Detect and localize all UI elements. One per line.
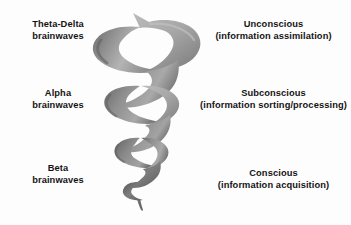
label-conscious-line2: (information acquisition) (196, 180, 351, 192)
label-theta-delta-brainwaves: Theta-Delta brainwaves (2, 19, 114, 43)
label-alpha-brainwaves: Alpha brainwaves (2, 88, 114, 112)
label-alpha-line2: brainwaves (2, 100, 114, 112)
brainwave-consciousness-diagram: Theta-Delta brainwaves Alpha brainwaves … (0, 0, 351, 225)
spiral-tail-tip (137, 199, 143, 211)
label-unconscious: Unconscious (information assimilation) (196, 19, 351, 43)
label-conscious-line1: Conscious (196, 168, 351, 180)
spiral-mid-descent (119, 115, 171, 152)
label-subconscious-line1: Subconscious (196, 88, 351, 100)
label-unconscious-line2: (information assimilation) (196, 31, 351, 43)
label-beta-brainwaves: Beta brainwaves (2, 163, 114, 187)
label-subconscious-line2: (information sorting/processing) (196, 100, 351, 112)
spiral-mid-right-face (141, 86, 179, 127)
spiral-shade-low (116, 145, 124, 162)
label-beta-line1: Beta (2, 163, 114, 175)
spiral-bottom-coil (124, 161, 161, 188)
label-theta-delta-line1: Theta-Delta (2, 19, 114, 31)
label-conscious: Conscious (information acquisition) (196, 168, 351, 192)
label-unconscious-line1: Unconscious (196, 19, 351, 31)
spiral-low-right-face (141, 138, 168, 170)
spiral-tail-curl (123, 182, 143, 200)
spiral-top-face (133, 13, 200, 72)
spiral-upper-descent (113, 60, 179, 108)
spiral-highlight-top (150, 24, 194, 40)
label-alpha-line1: Alpha (2, 88, 114, 100)
label-beta-line2: brainwaves (2, 175, 114, 187)
spiral-low-left-arc (115, 138, 159, 168)
label-theta-delta-line2: brainwaves (2, 31, 114, 43)
spiral-shade-top (98, 40, 107, 63)
label-subconscious: Subconscious (information sorting/proces… (196, 88, 351, 112)
